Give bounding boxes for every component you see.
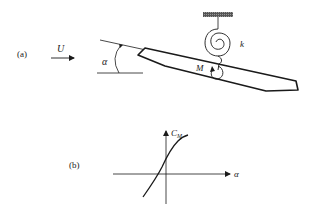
- moment-coefficient-curve: [143, 135, 188, 197]
- spring-constant-label: k: [240, 39, 245, 49]
- panel-a: (a) U α k M: [17, 12, 298, 91]
- angle-label: α: [102, 56, 108, 67]
- panel-b-label: (b): [69, 160, 80, 170]
- x-axis-label: α: [234, 169, 239, 179]
- diagram-canvas: (a) U α k M (b): [0, 0, 314, 211]
- angle-of-attack: α: [97, 40, 146, 73]
- panel-a-label: (a): [17, 49, 27, 59]
- ground-support: [203, 12, 233, 17]
- moment-label: M: [195, 63, 204, 73]
- angle-arc-icon: [115, 45, 121, 73]
- flow-velocity-label: U: [57, 43, 65, 54]
- y-axis-label: CM: [171, 128, 183, 139]
- panel-b: (b) α CM: [69, 128, 239, 204]
- flow-velocity: U: [51, 43, 74, 58]
